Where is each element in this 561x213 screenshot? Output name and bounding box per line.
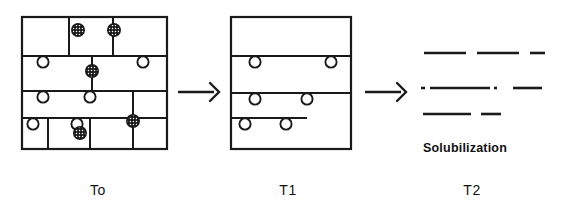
arrow-arrow-t0-t1 <box>178 83 219 101</box>
transition-arrows <box>0 0 561 213</box>
arrow-arrow-t1-t2 <box>365 83 406 101</box>
membrane-solubilization-figure: To T1 Solubilization T2 <box>0 0 561 213</box>
